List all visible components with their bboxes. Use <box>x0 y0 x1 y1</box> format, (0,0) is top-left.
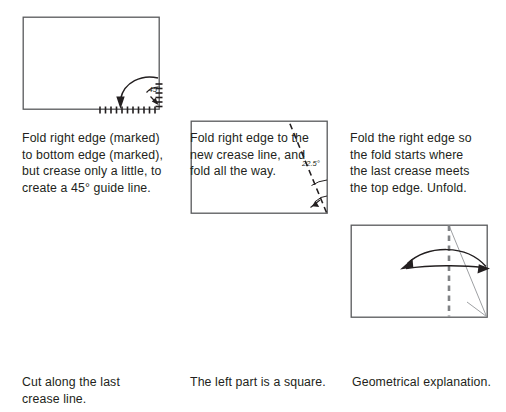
step-5-caption: The left part is a square. <box>190 374 350 391</box>
step-3-diagram <box>350 224 496 328</box>
step-3-caption: Fold the right edge so the fold starts w… <box>350 130 506 196</box>
step-4-caption: Cut along the last crease line. <box>22 374 182 407</box>
step-6-caption: Geometrical explanation. <box>352 374 506 391</box>
angle-label-45: 45° <box>149 85 160 94</box>
step-1-diagram: 45° <box>22 16 168 120</box>
step-3-figure <box>350 224 506 328</box>
step-1-figure: 45° <box>22 16 506 120</box>
step-2-caption: Fold right edge to the new crease line, … <box>190 130 345 180</box>
instruction-sheet: 45° Fold right edge (marked) to bottom e… <box>0 0 506 412</box>
step-1-caption: Fold right edge (marked) to bottom edge … <box>22 130 182 196</box>
paper-sheet <box>351 225 487 317</box>
paper-sheet <box>23 17 159 109</box>
